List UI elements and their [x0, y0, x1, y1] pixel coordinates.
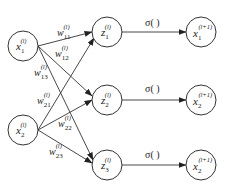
node-out1: [186, 17, 216, 47]
label-w22: w22(l): [58, 114, 72, 132]
node-out2: [186, 85, 216, 115]
node-out3: [186, 150, 216, 180]
node-z3: [92, 150, 122, 180]
neural-network-diagram: x1(l) x2(l) z1(l) z2(l) z3(l) x1(l+1) x2…: [0, 0, 228, 187]
label-w11: w11(l): [57, 23, 71, 41]
label-sigma-3: σ( ): [145, 149, 160, 161]
node-x2: [8, 115, 38, 145]
label-w12: w12(l): [55, 44, 69, 62]
node-x1: [8, 31, 38, 61]
label-w13: w13(l): [34, 63, 48, 81]
label-sigma-2: σ( ): [145, 83, 160, 95]
node-z2: [92, 85, 122, 115]
activation-edges: [122, 32, 186, 165]
node-z1: [92, 17, 122, 47]
label-w21: w21(l): [37, 91, 51, 109]
label-sigma-1: σ( ): [145, 17, 160, 29]
label-w23: w23(l): [49, 142, 63, 160]
edge-x2-z3: [38, 130, 92, 163]
